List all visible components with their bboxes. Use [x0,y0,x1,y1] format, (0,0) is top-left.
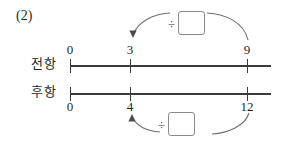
tick-label-antecedent-9: 9 [244,42,251,58]
tick-antecedent-0 [70,59,71,73]
tick-antecedent-9 [247,59,248,73]
number-line-antecedent [70,65,271,67]
relation-arcs-layer [0,0,283,148]
arc-consequent-left-segment [133,118,160,132]
divide-icon-consequent: ÷ [158,118,165,131]
tick-label-antecedent-3: 3 [127,42,134,58]
tick-label-consequent-4: 4 [127,99,134,115]
number-line-consequent [70,93,271,95]
tick-label-antecedent-0: 0 [67,42,74,58]
arc-antecedent-left-segment [133,13,170,35]
arc-consequent-right-segment [212,113,249,134]
divide-icon-antecedent: ÷ [168,17,175,30]
tick-label-consequent-0: 0 [67,99,74,115]
arc-antecedent-right-segment [207,13,248,40]
problem-number-label: (2) [16,8,32,24]
operation-group-antecedent: ÷ [168,11,205,35]
tick-antecedent-3 [130,59,131,73]
tick-label-consequent-12: 12 [241,99,254,115]
arrowhead-consequent-icon [128,114,135,122]
worksheet-figure: (2) 전항 0 3 9 후항 0 4 12 ÷ ÷ [0,0,283,148]
answer-box-antecedent[interactable] [178,11,205,35]
answer-box-consequent[interactable] [168,112,195,136]
row-label-antecedent: 전항 [31,53,56,72]
operation-group-consequent: ÷ [158,112,195,136]
arrowhead-antecedent-icon [129,31,136,39]
row-label-consequent: 후항 [31,81,56,100]
